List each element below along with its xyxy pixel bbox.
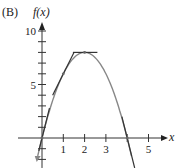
y-axis-arrow-icon bbox=[39, 22, 45, 30]
function-chart: (B) 5101235 f(x) x bbox=[0, 0, 179, 168]
x-axis-arrow-icon bbox=[161, 135, 168, 141]
x-tick-label: 1 bbox=[61, 143, 67, 155]
tangent-point bbox=[41, 137, 44, 140]
y-tick-label: 5 bbox=[31, 79, 37, 91]
tangent-point bbox=[83, 51, 86, 54]
x-tick-label: 5 bbox=[146, 143, 152, 155]
x-tick-label: 2 bbox=[82, 143, 88, 155]
x-axis-label: x bbox=[168, 130, 175, 144]
tangent-point bbox=[62, 72, 65, 75]
y-axis-label: f(x) bbox=[33, 5, 50, 19]
tangent-line bbox=[122, 117, 135, 168]
tangent-point bbox=[126, 137, 129, 140]
x-tick-label: 3 bbox=[103, 143, 109, 155]
y-tick-label: 10 bbox=[25, 25, 37, 37]
tangent-line bbox=[39, 108, 50, 151]
panel-label: (B) bbox=[2, 5, 18, 19]
